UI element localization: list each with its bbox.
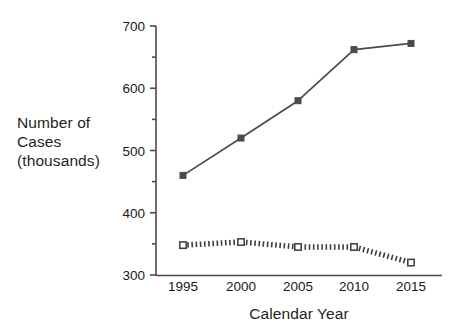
chart-plot-area: 300400500600700 19952000200520102015 xyxy=(0,0,453,333)
y-tick-label-700: 700 xyxy=(122,19,145,34)
series-dotted-point-2000 xyxy=(238,239,244,245)
x-tick-label-2005: 2005 xyxy=(283,279,313,294)
series-solid-point-2005 xyxy=(295,98,301,104)
series-dotted xyxy=(180,239,414,266)
x-tick-label-1995: 1995 xyxy=(168,279,198,294)
series-dotted-point-2005 xyxy=(295,244,301,250)
series-solid-point-2010 xyxy=(351,47,357,53)
chart-container: Number of Cases (thousands) 300400500600… xyxy=(0,0,453,333)
y-tick-label-400: 400 xyxy=(122,206,145,221)
series-dotted-point-1995 xyxy=(180,242,186,248)
axis-lines xyxy=(156,26,442,276)
x-axis-tick-labels: 19952000200520102015 xyxy=(168,279,426,294)
series-solid xyxy=(180,40,414,178)
y-axis-tick-labels: 300400500600700 xyxy=(122,19,145,283)
x-axis-title: Calendar Year xyxy=(156,305,442,323)
series-solid-point-2000 xyxy=(238,135,244,141)
series-dotted-point-2015 xyxy=(408,259,414,265)
series-solid-line xyxy=(183,43,411,175)
x-tick-label-2000: 2000 xyxy=(226,279,256,294)
series-solid-point-2015 xyxy=(408,40,414,46)
y-tick-label-300: 300 xyxy=(122,268,145,283)
series-solid-point-1995 xyxy=(180,172,186,178)
series-dotted-point-2010 xyxy=(351,244,357,250)
x-tick-label-2010: 2010 xyxy=(339,279,369,294)
y-axis-major-ticks xyxy=(150,26,156,275)
y-tick-label-500: 500 xyxy=(122,144,145,159)
y-tick-label-600: 600 xyxy=(122,81,145,96)
x-tick-label-2015: 2015 xyxy=(396,279,426,294)
